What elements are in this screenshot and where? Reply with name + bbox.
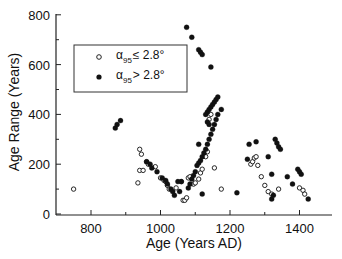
filled-data-point	[172, 193, 177, 198]
filled-data-point	[200, 52, 205, 57]
open-data-point	[254, 155, 258, 159]
filled-data-point	[271, 193, 276, 198]
filled-data-point	[254, 139, 259, 144]
y-tick-label: 400	[28, 107, 50, 122]
open-data-point	[263, 183, 267, 187]
filled-data-point	[177, 189, 182, 194]
legend-filled-circle-icon	[96, 74, 101, 79]
open-data-point	[138, 147, 142, 151]
open-data-point	[256, 163, 260, 167]
open-data-point	[276, 187, 280, 191]
open-data-point	[193, 181, 197, 185]
x-axis-title: Age (Years AD)	[146, 235, 242, 251]
filled-data-point	[214, 117, 219, 122]
filled-data-point	[196, 142, 201, 147]
axis-tick-labels: 8001000120014000200400600800	[28, 8, 314, 236]
filled-data-point	[269, 172, 274, 177]
filled-data-point	[278, 147, 283, 152]
filled-data-point	[215, 95, 220, 100]
open-data-point	[141, 168, 145, 172]
scatter-chart: 8001000120014000200400600800 Age (Years …	[0, 0, 342, 259]
open-data-point	[174, 186, 178, 190]
filled-data-point	[306, 197, 311, 202]
filled-data-point	[165, 182, 170, 187]
filled-data-point	[203, 147, 208, 152]
open-data-point	[139, 152, 143, 156]
open-data-point	[136, 181, 140, 185]
open-data-point	[197, 177, 201, 181]
filled-data-point	[219, 107, 224, 112]
x-tick-label: 800	[80, 221, 102, 236]
y-tick-label: 800	[28, 8, 50, 23]
x-tick-label: 1200	[216, 221, 245, 236]
filled-data-point	[247, 142, 252, 147]
filled-data-point	[193, 169, 198, 174]
filled-data-point	[215, 112, 220, 117]
filled-data-point	[179, 179, 184, 184]
y-tick-label: 200	[28, 157, 50, 172]
filled-data-point	[205, 142, 210, 147]
filled-data-point	[245, 157, 250, 162]
x-tick-label: 1400	[285, 221, 314, 236]
y-tick-label: 0	[43, 207, 50, 222]
filled-data-point	[208, 65, 213, 70]
y-tick-label: 600	[28, 58, 50, 73]
x-tick-label: 1000	[146, 221, 175, 236]
filled-data-point	[266, 154, 271, 159]
open-data-point	[219, 187, 223, 191]
open-data-point	[303, 192, 307, 196]
filled-data-point	[299, 172, 304, 177]
open-data-point	[259, 175, 263, 179]
legend: α95≤ 2.8° α95> 2.8°	[74, 45, 187, 92]
y-axis-title: Age Range (Years)	[6, 53, 22, 172]
filled-data-point	[285, 174, 290, 179]
filled-data-point	[290, 182, 295, 187]
filled-data-point	[155, 169, 160, 174]
open-data-point	[200, 167, 204, 171]
filled-data-point	[200, 192, 205, 197]
filled-data-point	[207, 122, 212, 127]
filled-data-point	[212, 122, 217, 127]
filled-data-point	[207, 137, 212, 142]
legend-open-circle-icon	[97, 55, 102, 60]
filled-data-point	[208, 132, 213, 137]
filled-data-point	[188, 182, 193, 187]
filled-data-point	[189, 35, 194, 40]
filled-data-point	[149, 165, 154, 170]
filled-data-point	[118, 118, 123, 123]
open-data-point	[71, 187, 75, 191]
filled-data-point	[184, 25, 189, 30]
open-data-point	[184, 196, 188, 200]
open-data-point	[212, 166, 216, 170]
filled-data-point	[210, 127, 215, 132]
filled-data-point	[234, 190, 239, 195]
